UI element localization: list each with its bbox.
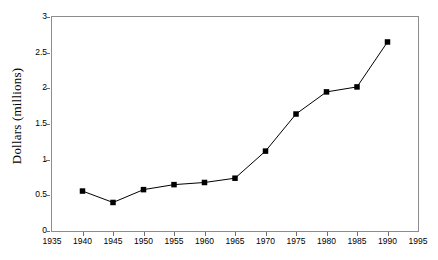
y-tick-mark (46, 124, 50, 125)
x-tick-mark (174, 232, 175, 236)
y-tick-mark (46, 231, 50, 232)
data-point-marker (354, 84, 360, 90)
x-tick-label: 1980 (307, 237, 347, 246)
y-tick-mark (46, 17, 50, 18)
x-tick-label: 1965 (215, 237, 255, 246)
y-tick-label: 1.5 (25, 119, 47, 128)
x-tick-label: 1970 (246, 237, 286, 246)
data-point-marker (385, 39, 391, 45)
data-point-marker (171, 182, 177, 188)
x-tick-label: 1985 (337, 237, 377, 246)
x-tick-mark (388, 232, 389, 236)
y-tick-label: 2 (25, 83, 47, 92)
data-point-marker (141, 187, 147, 193)
x-tick-mark (235, 232, 236, 236)
y-tick-mark (46, 195, 50, 196)
x-tick-label: 1990 (368, 237, 408, 246)
x-tick-label: 1945 (93, 237, 133, 246)
plot-area (51, 16, 419, 232)
y-tick-label: 2.5 (25, 48, 47, 57)
x-tick-mark (296, 232, 297, 236)
x-tick-mark (113, 232, 114, 236)
x-tick-mark (357, 232, 358, 236)
x-tick-mark (266, 232, 267, 236)
x-tick-label: 1955 (154, 237, 194, 246)
data-series-line (52, 17, 418, 231)
chart-figure: Dollars (millions) 00.511.522.53 1935194… (0, 0, 438, 260)
x-tick-mark (144, 232, 145, 236)
x-tick-label: 1950 (124, 237, 164, 246)
data-point-marker (110, 200, 116, 206)
y-tick-mark (46, 53, 50, 54)
x-tick-mark (327, 232, 328, 236)
y-tick-mark (46, 88, 50, 89)
x-tick-label: 1975 (276, 237, 316, 246)
y-tick-label: 3 (25, 12, 47, 21)
y-tick-label: 0 (25, 226, 47, 235)
data-point-marker (232, 175, 238, 181)
x-tick-mark (83, 232, 84, 236)
x-tick-label: 1960 (185, 237, 225, 246)
data-point-marker (202, 180, 208, 186)
y-tick-mark (46, 160, 50, 161)
y-tick-label: 1 (25, 155, 47, 164)
x-tick-label: 1995 (398, 237, 438, 246)
data-point-marker (263, 148, 269, 154)
data-point-marker (293, 111, 299, 117)
x-tick-mark (205, 232, 206, 236)
y-tick-label: 0.5 (25, 190, 47, 199)
data-point-marker (324, 89, 330, 95)
data-point-marker (80, 188, 86, 194)
y-axis-labels: 00.511.522.53 (23, 0, 47, 260)
x-tick-label: 1940 (63, 237, 103, 246)
